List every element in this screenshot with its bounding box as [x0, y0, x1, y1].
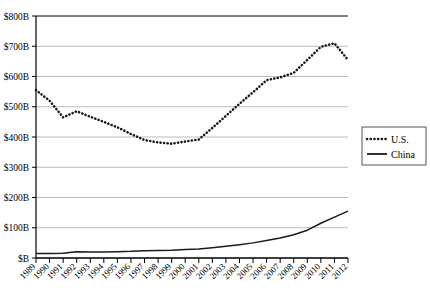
x-axis: 1989199019911992199319941995199619971998… — [18, 258, 350, 281]
y-axis-tick-label: $600B — [4, 72, 29, 82]
y-axis-tick-label: $800B — [4, 12, 29, 22]
series-line-china — [36, 211, 348, 253]
y-axis-tick-label: $400B — [4, 133, 29, 143]
legend-label: U.S. — [391, 134, 409, 145]
gridlines — [36, 16, 348, 258]
y-axis-tick-label: $100B — [4, 223, 29, 233]
y-axis-tick-label: $B — [18, 254, 29, 264]
y-axis-tick-label: $700B — [4, 42, 29, 52]
chart-container: $B$100B$200B$300B$400B$500B$600B$700B$80… — [0, 0, 430, 297]
y-axis-tick-label: $300B — [4, 163, 29, 173]
y-axis-tick-label: $200B — [4, 193, 29, 203]
legend-label: China — [391, 149, 415, 160]
y-axis-tick-label: $500B — [4, 102, 29, 112]
y-axis: $B$100B$200B$300B$400B$500B$600B$700B$80… — [4, 12, 36, 264]
series-line-us — [36, 43, 348, 143]
chart-svg: $B$100B$200B$300B$400B$500B$600B$700B$80… — [0, 0, 430, 297]
x-axis-tick-label: 2012 — [330, 261, 350, 281]
chart-legend: U.S.China — [362, 127, 426, 165]
series-lines — [36, 43, 348, 253]
